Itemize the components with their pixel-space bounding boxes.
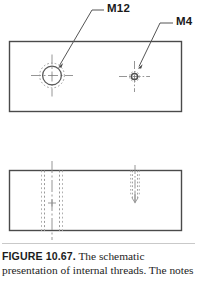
caption-divider	[2, 243, 195, 244]
m4-center-point	[134, 76, 135, 77]
front-view	[10, 10, 182, 112]
section-view-outline	[10, 171, 182, 231]
technical-drawing-figure: M12 M4	[0, 0, 200, 240]
front-view-outline	[10, 42, 182, 112]
engineering-drawing-svg	[0, 0, 200, 240]
figure-number: FIGURE 10.67.	[2, 250, 76, 262]
figure-caption: FIGURE 10.67. The schematic presentation…	[2, 249, 198, 278]
figure-page: M12 M4 FIGURE 10.67. The schematic prese…	[0, 0, 200, 283]
section-view	[10, 161, 182, 240]
label-m12: M12	[107, 2, 130, 14]
m12-center-point	[51, 75, 53, 77]
label-m4: M4	[176, 15, 192, 27]
